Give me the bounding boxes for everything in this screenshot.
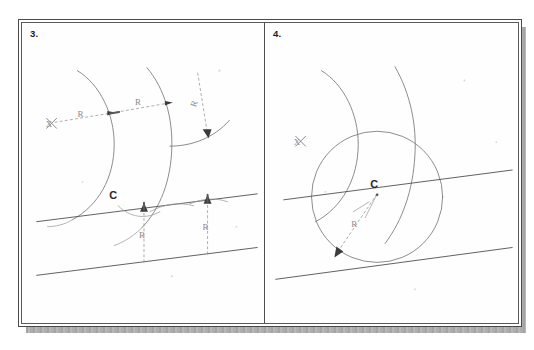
scanned-worksheet-page: ········································… <box>0 0 534 350</box>
arc-mid-locus <box>142 68 172 228</box>
arc-mid-lower-tail <box>114 228 142 246</box>
tangent-line-lower <box>37 248 258 276</box>
drop-radius-label-2: R <box>203 222 209 232</box>
panel-3: 3. <box>22 23 264 323</box>
tangent-line-upper-4 <box>284 170 512 200</box>
arc-right-locus-4 <box>385 67 415 244</box>
tangent-construction-arc-1 <box>118 206 160 217</box>
tangent-line-lower-4 <box>276 248 512 280</box>
construction-whisker <box>353 202 369 212</box>
panel-3-drawing: X R R R <box>22 23 264 323</box>
constructed-circle <box>312 131 443 262</box>
arc-left-lower-tail <box>48 220 73 227</box>
center-mark-x-label-4: X <box>294 137 301 147</box>
radius-label-3: R <box>188 99 199 108</box>
cut-off-header-text: ········································… <box>22 0 492 3</box>
worksheet-frame: 3. <box>18 19 522 327</box>
worksheet-frame-inner: 3. <box>21 22 519 324</box>
center-mark-x-label: X <box>46 119 53 129</box>
panel-4-drawing: X R <box>265 23 519 323</box>
tangent-point-c-label: C <box>109 189 117 201</box>
radius-label-4: R <box>351 219 357 229</box>
arc-left-locus-4 <box>316 71 359 222</box>
circle-center-c-label: C <box>370 178 378 190</box>
panel-4: 4. X <box>265 23 519 323</box>
drop-radius-label-1: R <box>139 230 145 240</box>
radius-label-1: R <box>77 109 83 119</box>
arc-left-locus <box>72 71 114 220</box>
circle-center-dot <box>376 193 379 196</box>
construction-whisker-2 <box>365 194 377 218</box>
arrowhead-r3 <box>203 129 212 138</box>
radius-label-2: R <box>135 97 141 107</box>
tangent-line-upper <box>37 194 258 222</box>
arc-right-target <box>170 120 230 146</box>
arrowhead-r2 <box>165 101 173 105</box>
